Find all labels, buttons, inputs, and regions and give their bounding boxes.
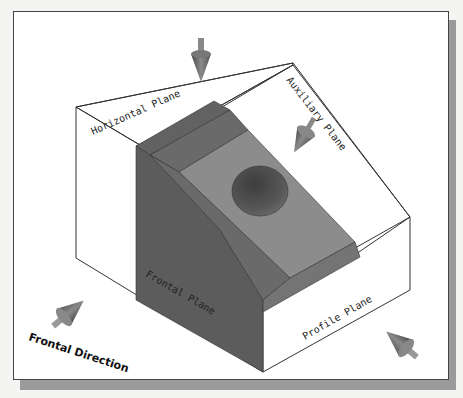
frontal-view-arrow-icon: [46, 292, 91, 335]
profile-plane-label: Profile Plane: [301, 293, 374, 342]
horizontal-view-arrow-icon: [191, 38, 211, 82]
frontal-direction-label: Frontal Direction: [27, 330, 131, 375]
isometric-diagram: Horizontal Plane Auxiliary Plane Frontal…: [0, 0, 463, 398]
profile-view-arrow-icon: [379, 323, 424, 366]
part-hole: [232, 166, 288, 216]
